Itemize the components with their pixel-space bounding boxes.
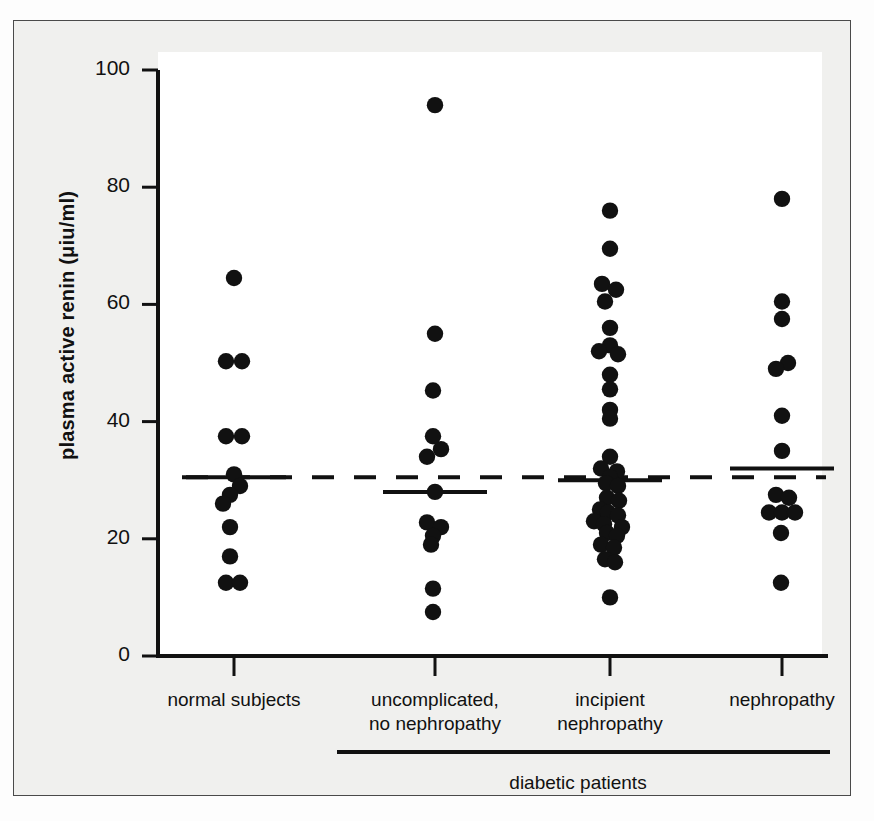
data-point [218,428,234,444]
y-tick-label-20: 20 [76,525,130,549]
data-point [774,293,790,309]
data-point [774,443,790,459]
data-point [774,408,790,424]
data-point [602,410,618,426]
data-point [773,575,789,591]
data-point [423,536,439,552]
data-point [234,353,250,369]
data-point [597,293,613,309]
data-point [425,604,441,620]
y-tick-label-40: 40 [76,408,130,432]
data-point [215,495,231,511]
y-axis-ticks [142,70,158,656]
bracket-label: diabetic patients [318,772,838,794]
data-point [591,343,607,359]
data-point [768,361,784,377]
data-point [774,311,790,327]
data-point [610,346,626,362]
y-tick-label-100: 100 [76,56,130,80]
data-point [602,381,618,397]
data-point [419,449,435,465]
data-point [602,202,618,218]
data-point [218,353,234,369]
y-tick-label-0: 0 [76,642,130,666]
data-point [602,589,618,605]
data-point [427,326,443,342]
data-point [781,490,797,506]
data-point [602,320,618,336]
x-category-label-0: normal subjects [129,688,339,712]
data-point [594,276,610,292]
data-point [234,428,250,444]
data-point [607,554,623,570]
data-point [787,504,803,520]
data-point [222,548,238,564]
data-point [774,191,790,207]
data-point [425,580,441,596]
figure-container: plasma active renin (μiu/ml) 02040608010… [0,0,874,821]
data-point [222,519,238,535]
data-point [773,525,789,541]
data-point [232,575,248,591]
data-point [226,270,242,286]
data-point [427,484,443,500]
x-category-label-3: nephropathy [677,688,874,712]
x-axis-ticks [234,656,782,676]
data-point [427,97,443,113]
data-point [425,382,441,398]
data-point [218,575,234,591]
data-point [433,441,449,457]
y-tick-label-80: 80 [76,173,130,197]
data-point [602,367,618,383]
y-tick-label-60: 60 [76,290,130,314]
data-point [602,241,618,257]
plot-background [158,52,822,656]
